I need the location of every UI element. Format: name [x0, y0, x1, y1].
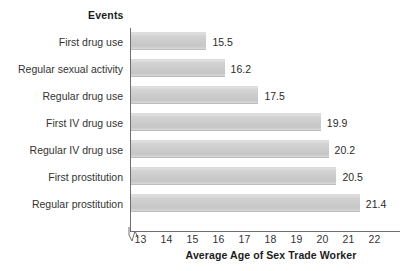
x-tick-label: 20 [317, 233, 329, 245]
bar-chart: Events First drug use15.5Regular sexual … [0, 0, 412, 271]
plot-area: First drug use15.5Regular sexual activit… [130, 28, 412, 231]
category-axis-title: Events [88, 9, 124, 21]
x-tick-label: 13 [135, 233, 147, 245]
value-label: 19.9 [327, 117, 347, 129]
x-tick-label: 22 [369, 233, 381, 245]
category-label: First prostitution [48, 171, 123, 183]
bar-row: Regular sexual activity16.2 [130, 55, 412, 82]
category-label: Regular drug use [42, 90, 123, 102]
x-tick-label: 19 [291, 233, 303, 245]
x-tick-label: 15 [187, 233, 199, 245]
bar [131, 86, 258, 104]
bar-row: Regular prostitution21.4 [130, 190, 412, 217]
value-label: 16.2 [231, 63, 251, 75]
bar [131, 59, 225, 77]
category-label: First IV drug use [46, 117, 123, 129]
bar-row: Regular drug use17.5 [130, 82, 412, 109]
x-tick-label: 14 [161, 233, 173, 245]
value-label: 21.4 [366, 198, 386, 210]
bar [131, 194, 360, 212]
x-axis-title: Average Age of Sex Trade Worker [0, 249, 412, 261]
bar-row: First prostitution20.5 [130, 163, 412, 190]
bar [131, 140, 329, 158]
category-label: First drug use [59, 36, 123, 48]
bar [131, 113, 321, 131]
value-label: 20.2 [335, 144, 355, 156]
x-tick-label: 16 [213, 233, 225, 245]
bar [131, 167, 336, 185]
bar-row: First drug use15.5 [130, 28, 412, 55]
value-label: 15.5 [212, 36, 232, 48]
bar-row: Regular IV drug use20.2 [130, 136, 412, 163]
x-axis-line [130, 231, 400, 232]
value-label: 20.5 [342, 171, 362, 183]
x-tick-label: 17 [239, 233, 251, 245]
bar [131, 32, 206, 50]
x-tick-label: 21 [343, 233, 355, 245]
bar-row: First IV drug use19.9 [130, 109, 412, 136]
category-label: Regular prostitution [32, 198, 123, 210]
x-tick-label: 18 [265, 233, 277, 245]
category-label: Regular sexual activity [18, 63, 123, 75]
value-label: 17.5 [264, 90, 284, 102]
category-label: Regular IV drug use [30, 144, 123, 156]
